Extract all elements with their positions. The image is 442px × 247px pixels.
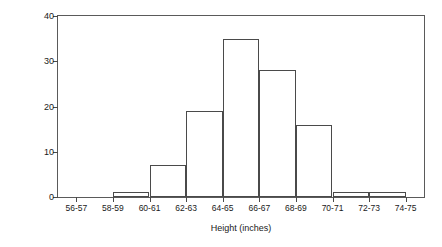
x-tick-label: 56-57 [65,204,87,213]
x-tick-mark [186,197,187,202]
x-tick-mark [369,197,370,202]
histogram-bar [223,39,260,197]
y-tick-label: 30 [44,57,54,66]
x-tick-mark [259,197,260,202]
histogram-bar [333,192,370,197]
x-tick-mark [76,197,77,202]
x-tick-mark [406,197,407,202]
y-tick-label: 20 [44,102,54,111]
histogram-bar [113,192,150,197]
x-axis-title: Height (inches) [57,224,425,233]
x-tick-mark [223,197,224,202]
y-tick-label: 10 [44,147,54,156]
x-tick-label: 64-65 [212,204,234,213]
histogram-bar [369,192,406,197]
x-tick-label: 62-63 [175,204,197,213]
x-tick-mark [333,197,334,202]
histogram-figure: 01020304056-5758-5960-6162-6364-6566-676… [0,0,442,247]
y-tick-label: 40 [44,12,54,21]
x-tick-label: 58-59 [102,204,124,213]
histogram-bar [150,165,187,197]
plot-area: 01020304056-5758-5960-6162-6364-6566-676… [57,15,425,198]
x-tick-label: 66-67 [248,204,270,213]
x-tick-mark [113,197,114,202]
x-tick-mark [296,197,297,202]
x-tick-mark [150,197,151,202]
x-tick-label: 68-69 [285,204,307,213]
x-tick-label: 70-71 [322,204,344,213]
histogram-bar [259,70,296,197]
x-tick-label: 74-75 [395,204,417,213]
x-tick-label: 60-61 [139,204,161,213]
y-tick-label: 0 [49,193,54,202]
histogram-bar [296,125,333,197]
histogram-bar [186,111,223,197]
x-tick-label: 72-73 [358,204,380,213]
